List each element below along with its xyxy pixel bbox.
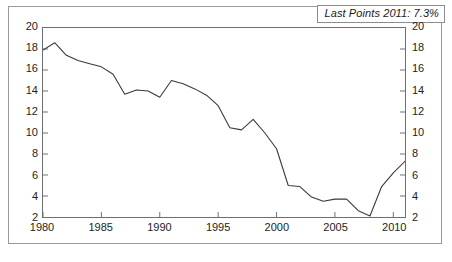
y-axis-left-ticks [43,49,48,196]
x-tick-label: 1990 [147,221,171,233]
x-axis-ticks [43,212,393,217]
y-tick-label-right: 12 [412,106,424,117]
x-tick-label: 1985 [88,221,112,233]
x-tick-label: 1980 [30,221,54,233]
last-points-annotation: Last Points 2011: 7.3% [317,5,445,23]
y-tick-label-right: 14 [412,85,424,96]
y-tick-label-left: 12 [26,106,38,117]
y-tick-label-left: 16 [26,63,38,74]
y-tick-label-left: 10 [26,127,38,138]
y-tick-label-right: 8 [412,148,418,159]
x-tick-label: 2000 [265,221,289,233]
y-tick-label-left: 20 [26,21,38,32]
y-tick-label-right: 6 [412,170,418,181]
y-tick-label-left: 18 [26,42,38,53]
caption-fragment [10,249,430,260]
data-series-line [43,43,405,216]
y-tick-label-left: 8 [32,148,38,159]
y-tick-label-right: 16 [412,63,424,74]
y-tick-label-right: 20 [412,21,424,32]
y-axis-right-labels: 2018161412108642 [412,27,438,218]
y-axis-left-labels: 2018161412108642 [14,27,38,218]
y-tick-label-right: 2 [412,212,418,223]
y-tick-label-right: 4 [412,191,418,202]
y-tick-label-left: 6 [32,170,38,181]
y-tick-label-left: 14 [26,85,38,96]
y-tick-label-right: 10 [412,127,424,138]
x-tick-label: 1995 [206,221,230,233]
y-tick-label-right: 18 [412,42,424,53]
data-line-svg [43,28,405,217]
y-axis-right-ticks [400,49,405,196]
x-tick-label: 2010 [382,221,406,233]
x-axis-labels: 1980198519901995200020052010 [42,221,406,237]
plot-area [42,27,406,218]
y-tick-label-left: 4 [32,191,38,202]
chart-figure: Last Points 2011: 7.3% 2018161412108642 … [0,0,452,262]
x-tick-label: 2005 [323,221,347,233]
